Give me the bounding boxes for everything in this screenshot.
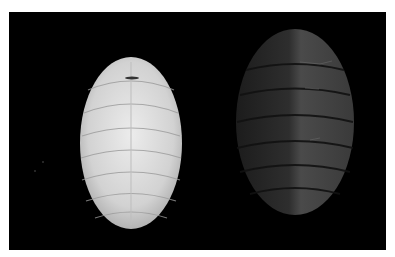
speck (34, 170, 36, 172)
pale-chiton (80, 57, 182, 229)
specimens-illustration (0, 0, 395, 257)
speck (42, 161, 44, 163)
dark-chiton (236, 29, 354, 215)
